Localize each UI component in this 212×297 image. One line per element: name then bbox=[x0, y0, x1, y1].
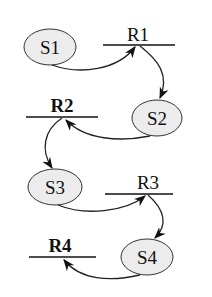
resource-r4: R4 bbox=[29, 235, 96, 257]
state-resource-diagram: S1 R1 S2 R2 S3 R3 S4 R4 bbox=[0, 0, 212, 297]
resource-r1: R1 bbox=[103, 24, 175, 45]
state-s4-label: S4 bbox=[137, 247, 158, 268]
edge-r1-s2 bbox=[140, 46, 164, 98]
resource-r1-label: R1 bbox=[127, 24, 149, 45]
state-node-s4: S4 bbox=[121, 239, 173, 275]
resource-r4-label: R4 bbox=[48, 235, 72, 256]
state-node-s2: S2 bbox=[132, 100, 182, 136]
resource-r2-label: R2 bbox=[50, 95, 73, 116]
state-s3-label: S3 bbox=[45, 177, 65, 198]
state-node-s3: S3 bbox=[28, 169, 82, 205]
state-s1-label: S1 bbox=[40, 37, 60, 58]
state-node-s1: S1 bbox=[24, 29, 76, 65]
edge-r2-s3 bbox=[45, 118, 62, 168]
state-s2-label: S2 bbox=[147, 108, 167, 129]
resource-r2: R2 bbox=[26, 95, 98, 117]
resource-r3-label: R3 bbox=[137, 172, 159, 193]
edge-r3-s4 bbox=[148, 195, 163, 238]
resource-r3: R3 bbox=[105, 172, 173, 194]
